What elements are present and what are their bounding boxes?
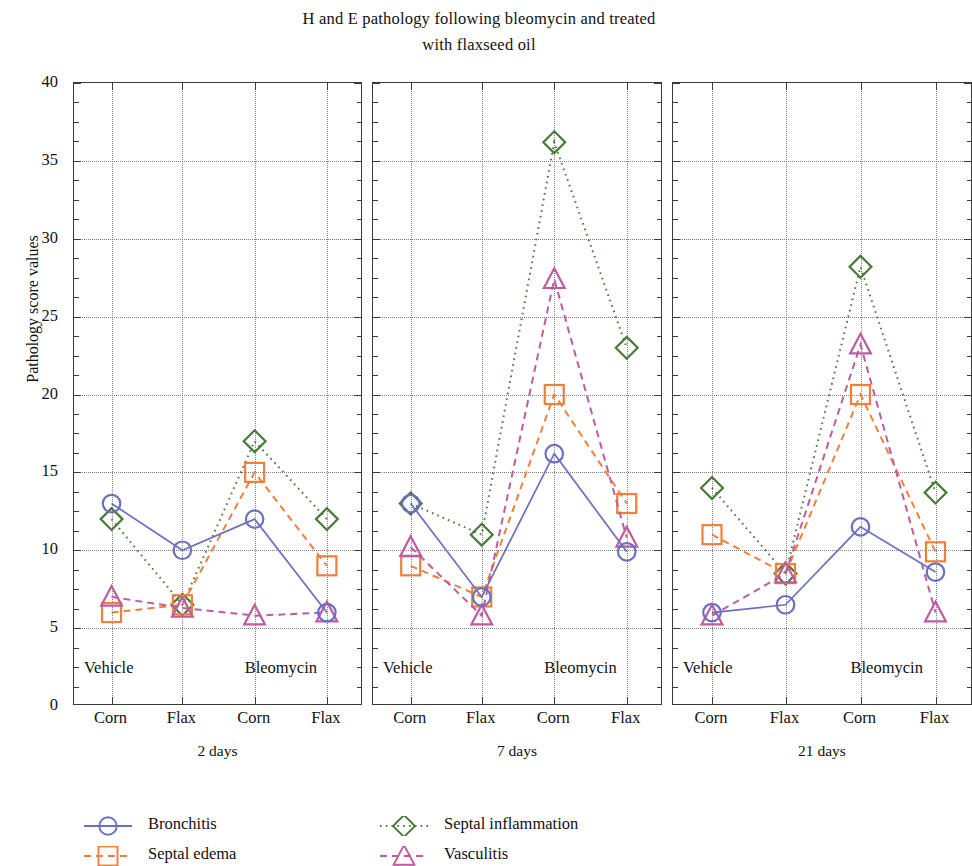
legend-label: Vasculitis: [444, 844, 508, 864]
square-marker: [926, 542, 945, 561]
y-tick-label: 5: [14, 617, 58, 637]
legend-swatch-triangle-icon: [378, 846, 436, 866]
y-tick-label: 0: [14, 695, 58, 715]
series-line-vasculitis: [411, 279, 627, 615]
x-category-label: Flax: [311, 708, 340, 728]
y-tick-label: 25: [14, 306, 58, 326]
x-category-label: Corn: [843, 708, 876, 728]
diamond-marker: [616, 337, 638, 359]
panel-title: 7 days: [497, 742, 537, 760]
chart-title-line-1: H and E pathology following bleomycin an…: [0, 6, 958, 32]
y-tick-label: 35: [14, 150, 58, 170]
x-category-label: Flax: [466, 708, 495, 728]
x-category-label: Flax: [611, 708, 640, 728]
chart-title-line-2: with flaxseed oil: [0, 32, 958, 58]
legend-label: Bronchitis: [148, 814, 217, 834]
y-tick-label: 20: [14, 384, 58, 404]
panel-title: 21 days: [798, 742, 846, 760]
chart-legend: BronchitisSeptal edemaSeptal inflammatio…: [0, 806, 958, 866]
legend-label: Septal edema: [148, 844, 236, 864]
panel-2-days: VehicleBleomycin: [73, 82, 362, 705]
x-category-label: Corn: [237, 708, 270, 728]
series-line-septal-inflammation: [411, 142, 627, 534]
legend-swatch-diamond-icon: [378, 816, 436, 836]
x-category-label: Flax: [167, 708, 196, 728]
diamond-marker: [471, 524, 493, 546]
series-line-septal-inflammation: [112, 441, 327, 605]
series-layer: [74, 83, 362, 705]
legend-swatch-square-icon: [82, 846, 140, 866]
series-line-bronchitis: [712, 527, 936, 613]
circle-marker: [927, 563, 944, 580]
x-category-label: Corn: [537, 708, 570, 728]
y-tick-label: 15: [14, 461, 58, 481]
y-tick-label: 30: [14, 228, 58, 248]
panel-title: 2 days: [197, 742, 237, 760]
diamond-marker: [925, 482, 947, 504]
x-category-label: Corn: [94, 708, 127, 728]
x-category-label: Flax: [920, 708, 949, 728]
diamond-marker: [850, 256, 872, 278]
y-tick-label: 40: [14, 72, 58, 92]
series-line-vasculitis: [112, 597, 327, 616]
series-line-bronchitis: [411, 454, 627, 597]
panel-21-days: VehicleBleomycin: [672, 82, 972, 705]
triangle-marker: [544, 268, 565, 288]
chart-title: H and E pathology following bleomycin an…: [0, 6, 958, 58]
series-line-septal-edema: [112, 472, 327, 612]
series-line-septal-edema: [712, 395, 936, 574]
square-marker: [617, 494, 636, 513]
x-category-label: Flax: [770, 708, 799, 728]
series-layer: [373, 83, 662, 705]
series-line-septal-inflammation: [712, 267, 936, 574]
x-category-label: Corn: [393, 708, 426, 728]
y-axis-ticks: 0510152025303540: [12, 0, 58, 859]
triangle-marker: [400, 536, 421, 556]
x-category-label: Corn: [695, 708, 728, 728]
panel-7-days: VehicleBleomycin: [372, 82, 662, 705]
y-tick-label: 10: [14, 539, 58, 559]
legend-label: Septal inflammation: [444, 814, 578, 834]
diamond-marker: [316, 508, 338, 530]
diamond-marker: [244, 430, 266, 452]
legend-swatch-circle-icon: [82, 816, 140, 836]
series-layer: [673, 83, 972, 705]
